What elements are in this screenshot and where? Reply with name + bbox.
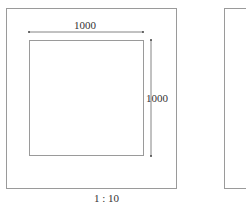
width-dimension-label: 1000 <box>74 20 96 31</box>
height-dimension-label: 1000 <box>146 93 168 104</box>
scale-label: 1 : 10 <box>94 193 119 204</box>
dimension-lines <box>0 0 246 206</box>
